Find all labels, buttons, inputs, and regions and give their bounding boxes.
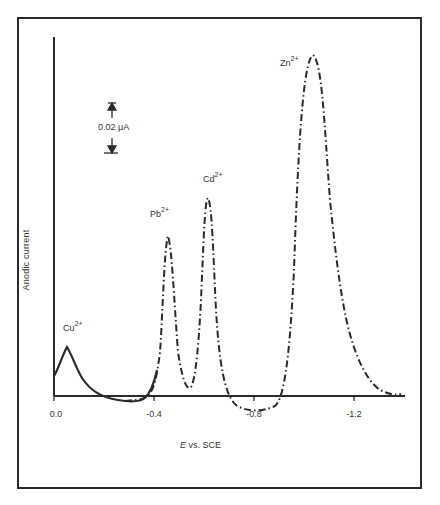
solid-curve	[54, 347, 157, 401]
x-tick-label: -1.2	[346, 409, 362, 419]
scale-bar-label: 0.02 μA	[98, 122, 129, 132]
peak-label-cu: Cu2+	[63, 320, 83, 333]
ion-symbol: Pb	[150, 209, 161, 219]
peak-label-pb: Pb2+	[150, 206, 169, 219]
peak-label-zn: Zn2+	[280, 55, 299, 68]
ion-charge: 2+	[215, 171, 223, 178]
peak-label-cd: Cd2+	[203, 171, 223, 184]
y-axis-label: Anodic current	[21, 220, 31, 300]
chart-plot	[0, 0, 440, 505]
x-tick-label: -0.8	[246, 409, 262, 419]
ion-charge: 2+	[161, 206, 169, 213]
ion-charge: 2+	[291, 55, 299, 62]
x-axis-label-text: vs. SCE	[186, 440, 221, 450]
x-axis-label: E vs. SCE	[180, 440, 221, 450]
ion-symbol: Cu	[63, 323, 75, 333]
x-tick-label: 0.0	[50, 409, 63, 419]
ion-symbol: Zn	[280, 58, 291, 68]
ion-symbol: Cd	[203, 174, 215, 184]
x-tick-label: -0.4	[146, 409, 162, 419]
ion-charge: 2+	[75, 320, 83, 327]
dashed-curve	[125, 55, 401, 410]
